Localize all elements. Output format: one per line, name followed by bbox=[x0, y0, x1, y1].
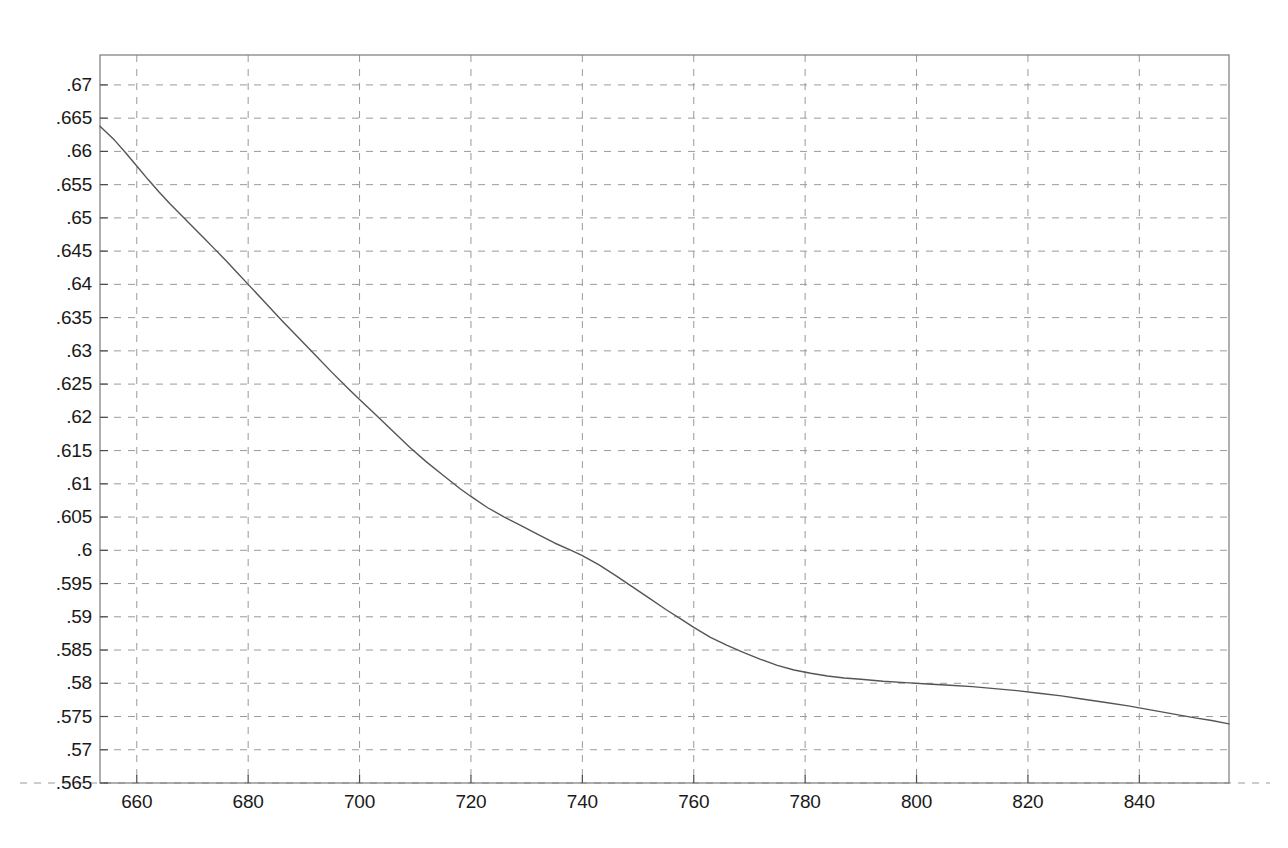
y-tick-label: .595 bbox=[56, 573, 92, 595]
x-tick-label: 700 bbox=[344, 791, 375, 813]
y-tick-label: .6 bbox=[77, 539, 92, 561]
y-tick-label: .63 bbox=[66, 340, 92, 362]
y-tick-label: .58 bbox=[66, 672, 92, 694]
y-tick-label: .59 bbox=[66, 606, 92, 628]
y-tick-label: .64 bbox=[66, 273, 92, 295]
y-tick-label: .67 bbox=[66, 74, 92, 96]
y-tick-label: .62 bbox=[66, 406, 92, 428]
x-tick-label: 720 bbox=[455, 791, 486, 813]
y-tick-label: .625 bbox=[56, 373, 92, 395]
y-tick-label: .575 bbox=[56, 706, 92, 728]
x-tick-label: 740 bbox=[567, 791, 598, 813]
plot-background bbox=[100, 55, 1229, 783]
y-tick-label: .605 bbox=[56, 506, 92, 528]
y-tick-label: .565 bbox=[56, 772, 92, 794]
x-tick-label: 760 bbox=[678, 791, 709, 813]
y-tick-label: .635 bbox=[56, 307, 92, 329]
x-tick-label: 780 bbox=[790, 791, 821, 813]
x-tick-label: 820 bbox=[1012, 791, 1043, 813]
x-tick-label: 840 bbox=[1124, 791, 1155, 813]
y-tick-label: .57 bbox=[66, 739, 92, 761]
chart-figure: .565.57.575.58.585.59.595.6.605.61.615.6… bbox=[0, 0, 1288, 848]
y-tick-label: .585 bbox=[56, 639, 92, 661]
x-tick-label: 800 bbox=[901, 791, 932, 813]
chart-plot-area bbox=[0, 0, 1288, 848]
x-tick-label: 660 bbox=[121, 791, 152, 813]
y-tick-label: .665 bbox=[56, 107, 92, 129]
y-tick-label: .61 bbox=[66, 473, 92, 495]
y-tick-label: .615 bbox=[56, 440, 92, 462]
y-tick-label: .65 bbox=[66, 207, 92, 229]
x-tick-label: 680 bbox=[233, 791, 264, 813]
y-tick-label: .655 bbox=[56, 174, 92, 196]
y-tick-label: .645 bbox=[56, 240, 92, 262]
y-tick-label: .66 bbox=[66, 140, 92, 162]
